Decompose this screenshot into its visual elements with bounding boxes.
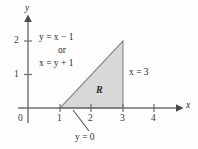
y-axis-label: y xyxy=(25,4,29,14)
region-label-r: R xyxy=(96,85,103,95)
curve-equation-or: or xyxy=(58,46,66,56)
y-tick-label-1: 1 xyxy=(14,70,19,80)
origin-label: 0 xyxy=(18,114,23,124)
graph-canvas xyxy=(0,0,198,149)
curve-equation-line2: x = y + 1 xyxy=(39,59,73,69)
x-axis-arrowhead xyxy=(176,104,184,112)
x-tick-label-2: 2 xyxy=(88,114,93,124)
right-boundary-label: x = 3 xyxy=(129,68,149,78)
y-equals-zero-leader-line xyxy=(73,110,89,131)
x-tick-label-3: 3 xyxy=(120,114,125,124)
y-axis-arrowhead xyxy=(24,15,32,23)
x-tick-label-4: 4 xyxy=(151,114,156,124)
lower-boundary-label: y = 0 xyxy=(75,133,95,143)
y-tick-label-2: 2 xyxy=(14,36,19,46)
x-axis-label: x xyxy=(186,101,190,111)
shaded-region-r xyxy=(60,41,123,108)
figure-region-r: y x 0 1 2 3 4 1 2 y = x − 1 or x = y + 1… xyxy=(0,0,198,149)
curve-equation-line1: y = x − 1 xyxy=(39,33,73,43)
x-tick-label-1: 1 xyxy=(57,114,62,124)
